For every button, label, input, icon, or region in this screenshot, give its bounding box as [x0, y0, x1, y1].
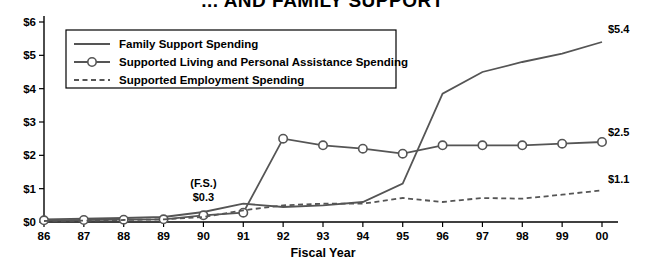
series-end-label-1: $5.4 — [608, 23, 630, 35]
y-tick-label: $2 — [23, 149, 36, 161]
series-marker — [359, 144, 367, 152]
chart-container: ... AND FAMILY SUPPORT $0$1$2$3$4$5$6868… — [0, 0, 645, 263]
series-marker — [558, 139, 566, 147]
x-tick-label: 87 — [77, 230, 90, 242]
x-axis-title: Fiscal Year — [290, 246, 355, 260]
annotation-1: (F.S.) — [190, 177, 217, 189]
y-tick-label: $6 — [23, 16, 36, 28]
legend-label-2: Supported Living and Personal Assistance… — [119, 56, 408, 68]
legend-marker-2 — [88, 58, 96, 66]
x-tick-label: 90 — [197, 230, 210, 242]
x-tick-label: 96 — [436, 230, 449, 242]
y-tick-label: $5 — [23, 49, 36, 61]
x-tick-label: 89 — [157, 230, 170, 242]
x-tick-label: 92 — [277, 230, 290, 242]
x-tick-label: 94 — [356, 230, 369, 242]
y-tick-label: $3 — [23, 116, 36, 128]
series-end-label-3: $1.1 — [608, 173, 629, 185]
series-marker — [319, 141, 327, 149]
legend-label-3: Supported Employment Spending — [119, 74, 304, 86]
chart-title: ... AND FAMILY SUPPORT — [0, 0, 645, 12]
series-line-2 — [44, 139, 602, 221]
x-tick-label: 98 — [516, 230, 529, 242]
series-marker — [518, 141, 526, 149]
x-tick-label: 93 — [317, 230, 330, 242]
series-marker — [598, 138, 606, 146]
x-tick-label: 97 — [476, 230, 489, 242]
annotation-2: $0.3 — [193, 191, 214, 203]
series-marker — [438, 141, 446, 149]
line-chart: $0$1$2$3$4$5$686878889909192939495969798… — [0, 0, 645, 263]
x-tick-label: 86 — [38, 230, 51, 242]
series-marker — [279, 134, 287, 142]
series-end-label-2: $2.5 — [608, 126, 629, 138]
y-tick-label: $0 — [23, 216, 36, 228]
series-marker — [478, 141, 486, 149]
series-marker — [199, 211, 207, 219]
y-tick-label: $4 — [23, 83, 36, 95]
series-marker — [399, 149, 407, 157]
x-tick-label: 99 — [556, 230, 569, 242]
x-tick-label: 88 — [117, 230, 130, 242]
legend-label-1: Family Support Spending — [119, 38, 258, 50]
x-tick-label: 95 — [396, 230, 409, 242]
y-tick-label: $1 — [23, 183, 36, 195]
x-tick-label: 00 — [596, 230, 609, 242]
x-tick-label: 91 — [237, 230, 250, 242]
